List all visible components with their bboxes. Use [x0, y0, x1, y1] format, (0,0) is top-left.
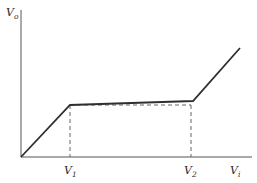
x-axis-label: Vi [230, 164, 241, 179]
transfer-curve [21, 48, 240, 157]
tick-label-v1: V1 [64, 164, 77, 179]
transfer-characteristic-diagram: Vo V1 V2 Vi [0, 0, 257, 183]
y-axis-label: Vo [6, 6, 19, 21]
tick-label-v2: V2 [184, 164, 197, 179]
